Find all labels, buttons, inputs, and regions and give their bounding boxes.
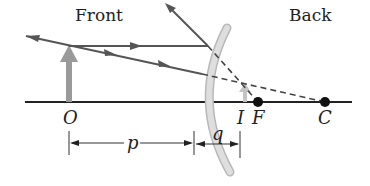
p-label: p [127, 132, 139, 153]
focal-label: F [251, 107, 266, 128]
focal-point-dot [253, 97, 263, 107]
object-arrow [60, 45, 78, 102]
convex-mirror-diagram: Front Back O I F C p q [0, 0, 370, 186]
diagram-canvas: Front Back O I F C p q [0, 0, 370, 186]
ray-toward-c-virtual [202, 74, 325, 102]
center-label: C [318, 107, 332, 128]
front-label: Front [75, 5, 123, 25]
back-label: Back [289, 5, 332, 25]
ray-parallel-reflected [168, 6, 208, 46]
object-label: O [63, 107, 78, 128]
image-label: I [236, 107, 245, 128]
q-label: q [212, 123, 224, 144]
center-of-curvature-dot [320, 97, 330, 107]
